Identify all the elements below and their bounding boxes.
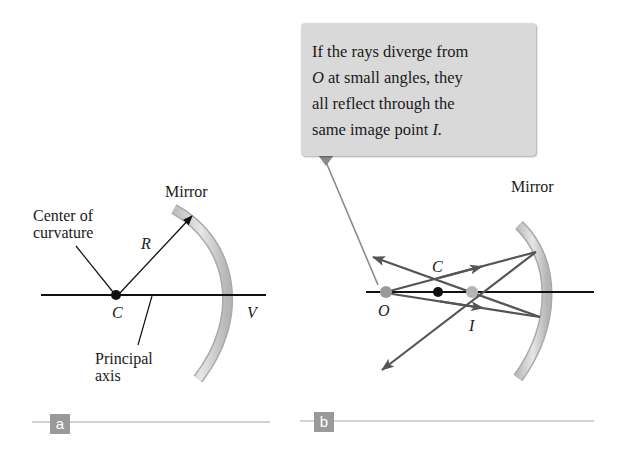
callout-line-1: If the rays diverge from xyxy=(312,39,526,65)
ray-reflected-lower xyxy=(373,257,540,317)
callout-box: If the rays diverge from O at small angl… xyxy=(301,23,536,156)
callout-leader-line xyxy=(326,162,378,285)
callout-image-symbol: I. xyxy=(433,120,443,139)
mirror-label-b: Mirror xyxy=(511,178,554,196)
radius-arrow xyxy=(118,216,192,295)
callout-line-4: same image point I. xyxy=(312,117,526,143)
callout-object-symbol: O xyxy=(312,68,324,87)
callout-line-2: O at small angles, they xyxy=(312,65,526,91)
center-point-b xyxy=(433,287,443,297)
axis-leader-line xyxy=(138,296,152,345)
principal-axis-label-line1: Principal xyxy=(95,350,153,368)
callout-pointer xyxy=(318,155,334,166)
center-point-label-b: C xyxy=(432,258,443,276)
principal-axis-label-line2: axis xyxy=(95,367,121,385)
image-point xyxy=(466,286,478,298)
center-point-label-a: C xyxy=(112,304,123,322)
panel-tag-a: a xyxy=(50,414,70,434)
center-of-curvature-label-line2: curvature xyxy=(33,224,93,242)
radius-label: R xyxy=(141,235,151,253)
center-of-curvature-label-line1: Center of xyxy=(33,207,93,225)
figure-canvas: Mirror Center of curvature R C V Princip… xyxy=(0,0,620,455)
center-leader-line xyxy=(76,246,113,292)
object-label: O xyxy=(378,302,390,320)
object-point xyxy=(380,286,392,298)
image-label: I xyxy=(469,317,474,335)
panel-tag-b: b xyxy=(314,412,334,432)
center-point-a xyxy=(111,290,121,300)
vertex-label: V xyxy=(247,304,257,322)
callout-line-3: all reflect through the xyxy=(312,91,526,117)
mirror-label-a: Mirror xyxy=(165,183,208,201)
